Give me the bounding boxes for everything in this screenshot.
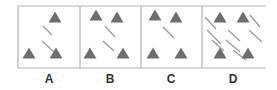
triangle-icon: [90, 10, 103, 21]
triangle-icon: [84, 48, 97, 59]
diagonal-line: [250, 15, 260, 27]
panel-a[interactable]: [23, 12, 63, 59]
multiple-choice-figure: A B C D: [0, 0, 277, 90]
triangle-icon: [111, 12, 124, 23]
triangle-icon: [237, 12, 250, 23]
diagonal-line: [249, 30, 262, 42]
diagonal-line: [105, 26, 115, 37]
option-label-d[interactable]: D: [229, 72, 238, 86]
panel-b[interactable]: [84, 10, 130, 59]
triangle-icon: [23, 48, 36, 59]
diagonal-line: [163, 27, 174, 38]
diagonal-line: [228, 30, 240, 41]
triangle-icon: [49, 12, 62, 23]
option-label-a[interactable]: A: [45, 72, 54, 86]
triangle-icon: [214, 12, 227, 23]
triangle-icon: [175, 48, 188, 59]
option-label-c[interactable]: C: [167, 72, 176, 86]
triangle-icon: [117, 48, 130, 59]
diagonal-line: [43, 26, 52, 35]
triangle-icon: [149, 10, 162, 21]
panel-c[interactable]: [147, 10, 188, 59]
diagonal-line: [205, 17, 216, 29]
triangle-icon: [242, 48, 255, 59]
panel-d[interactable]: [205, 12, 262, 61]
option-label-b[interactable]: B: [106, 72, 115, 86]
triangle-icon: [170, 12, 183, 23]
triangle-icon: [214, 48, 227, 59]
option-labels: A B C D: [45, 72, 238, 86]
triangle-icon: [147, 48, 160, 59]
diagonal-line: [103, 41, 114, 51]
panel-shapes: [23, 10, 263, 61]
diagonal-line: [42, 41, 54, 52]
